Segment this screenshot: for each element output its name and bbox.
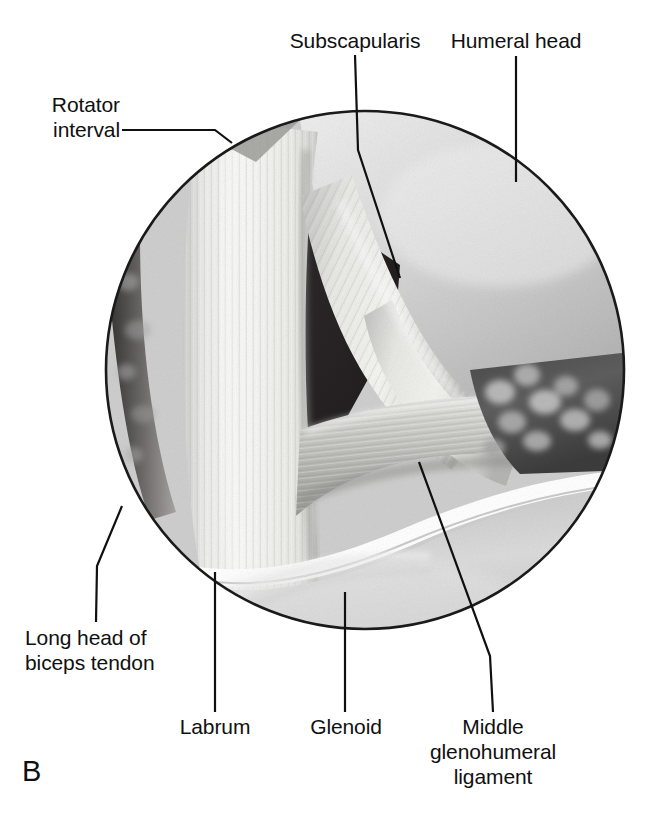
arthroscopic-field: [100, 105, 645, 664]
leader-biceps-tendon: [96, 506, 122, 622]
label-mghl-line1: Middle: [398, 714, 588, 739]
label-long-head-biceps-tendon: Long head of biceps tendon: [25, 625, 215, 675]
label-humeral-head: Humeral head: [436, 28, 596, 53]
label-glenoid: Glenoid: [282, 714, 410, 739]
label-rotator-interval-line1: Rotator: [0, 92, 120, 117]
leader-rotator-interval: [122, 130, 232, 143]
label-mghl-line2: glenohumeral: [398, 739, 588, 764]
label-middle-glenohumeral-ligament: Middle glenohumeral ligament: [398, 714, 588, 789]
label-rotator-interval: Rotator interval: [0, 92, 120, 142]
label-labrum: Labrum: [150, 714, 280, 739]
label-biceps-line2: biceps tendon: [25, 650, 215, 675]
label-rotator-interval-line2: interval: [0, 117, 120, 142]
figure-root: Rotator interval Subscapularis Humeral h…: [0, 0, 645, 815]
print-grain: [100, 105, 635, 640]
label-mghl-line3: ligament: [398, 764, 588, 789]
label-subscapularis: Subscapularis: [265, 28, 445, 53]
panel-letter: B: [22, 755, 41, 788]
label-biceps-line1: Long head of: [25, 625, 215, 650]
